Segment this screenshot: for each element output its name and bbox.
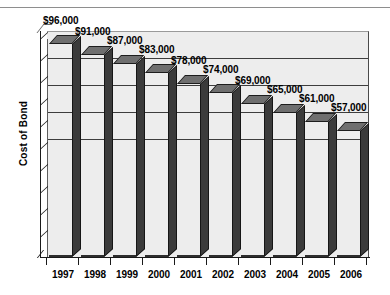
bar-value-label: $78,000 xyxy=(171,55,206,66)
bar-item[interactable] xyxy=(145,73,168,257)
x-axis-category-label: 2000 xyxy=(143,269,175,280)
x-axis-tick xyxy=(46,258,47,265)
x-axis-tick xyxy=(302,258,303,265)
bar-value-label: $74,000 xyxy=(203,64,238,75)
x-axis-category-label: 1999 xyxy=(111,269,143,280)
bar-value-label: $61,000 xyxy=(299,93,334,104)
bar-value-label: $57,000 xyxy=(331,102,366,113)
x-axis-tick xyxy=(78,258,79,265)
x-axis-category-label: 2005 xyxy=(303,269,335,280)
x-axis-category-label: 2002 xyxy=(207,269,239,280)
bar-side-face xyxy=(72,36,81,257)
bar-item[interactable] xyxy=(241,104,264,257)
bar-side-face xyxy=(104,47,113,257)
bar-value-label: $96,000 xyxy=(43,15,78,26)
bar-value-label: $87,000 xyxy=(107,35,142,46)
bar-side-face xyxy=(168,65,177,257)
bar-item[interactable] xyxy=(337,131,360,257)
bar-side-face xyxy=(328,114,337,257)
bar-side-face xyxy=(296,105,305,257)
bar-value-label: $69,000 xyxy=(235,75,270,86)
bar-value-label: $83,000 xyxy=(139,44,174,55)
x-axis-tick xyxy=(174,258,175,265)
bar-item[interactable] xyxy=(81,55,104,257)
x-axis-category-label: 2004 xyxy=(271,269,303,280)
bar-side-face xyxy=(360,123,369,257)
bar-item[interactable] xyxy=(177,84,200,257)
bar-side-face xyxy=(232,85,241,257)
x-axis-line xyxy=(40,257,370,258)
bar-side-face xyxy=(200,76,209,257)
x-axis-category-label: 1998 xyxy=(79,269,111,280)
bar-value-label: $65,000 xyxy=(267,84,302,95)
x-axis-tick xyxy=(334,258,335,265)
x-axis-category-label: 2001 xyxy=(175,269,207,280)
x-axis-tick xyxy=(142,258,143,265)
x-axis-category-label: 2003 xyxy=(239,269,271,280)
x-axis-category-label: 2006 xyxy=(335,269,367,280)
bar-value-label: $91,000 xyxy=(75,26,110,37)
x-axis-tick xyxy=(206,258,207,265)
bar-item[interactable] xyxy=(273,113,296,257)
x-axis-tick xyxy=(238,258,239,265)
bar-series xyxy=(0,8,390,295)
x-axis-tick xyxy=(110,258,111,265)
bar-side-face xyxy=(136,56,145,257)
x-axis-tick xyxy=(270,258,271,265)
bar-item[interactable] xyxy=(49,44,72,257)
bar-chart-figure: Cost of Bond xyxy=(0,8,390,295)
x-axis-category-label: 1997 xyxy=(47,269,79,280)
x-axis-tick xyxy=(366,258,367,265)
bar-item[interactable] xyxy=(305,122,328,257)
bar-side-face xyxy=(264,96,273,257)
bar-item[interactable] xyxy=(209,93,232,257)
bar-item[interactable] xyxy=(113,64,136,257)
